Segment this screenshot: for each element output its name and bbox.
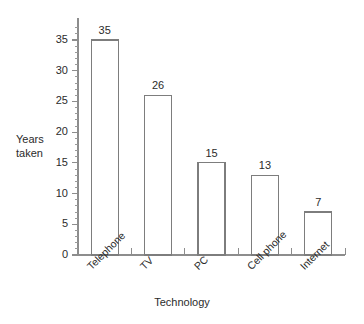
bar-chart: Years taken 05101520253035 352615137 Tel… bbox=[0, 0, 364, 324]
y-tick-label: 5 bbox=[28, 217, 68, 229]
bar[interactable] bbox=[91, 40, 118, 255]
bar[interactable] bbox=[198, 163, 225, 255]
bar-value-label: 26 bbox=[133, 79, 183, 91]
bar[interactable] bbox=[145, 95, 172, 255]
bar-value-label: 13 bbox=[240, 159, 290, 171]
y-tick-label: 10 bbox=[28, 187, 68, 199]
y-major-ticks bbox=[72, 40, 78, 255]
y-tick-label: 15 bbox=[28, 156, 68, 168]
bar-value-label: 35 bbox=[80, 24, 130, 36]
y-tick-label: 35 bbox=[28, 33, 68, 45]
bar-value-label: 7 bbox=[293, 196, 343, 208]
bar-value-label: 15 bbox=[187, 147, 237, 159]
y-tick-label: 20 bbox=[28, 125, 68, 137]
y-tick-label: 30 bbox=[28, 64, 68, 76]
y-tick-label: 25 bbox=[28, 94, 68, 106]
x-axis-title: Technology bbox=[0, 296, 364, 308]
y-tick-label: 0 bbox=[28, 248, 68, 260]
